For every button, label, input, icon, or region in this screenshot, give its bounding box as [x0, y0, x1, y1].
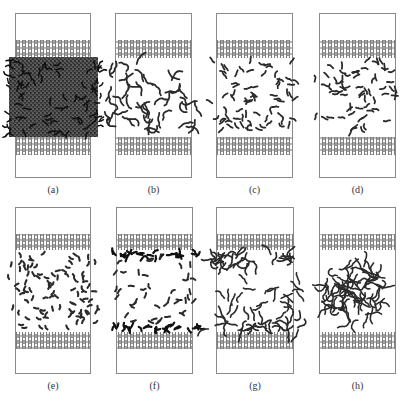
panel-label-c: (c)	[225, 184, 285, 195]
lower-graphene-sheet	[16, 332, 90, 349]
molecules	[198, 245, 306, 342]
molecules	[8, 252, 99, 330]
panel-label-e: (e)	[23, 380, 83, 391]
panel-label-f: (f)	[125, 380, 185, 391]
panel-a	[3, 40, 107, 155]
upper-graphene-sheet	[217, 40, 292, 58]
panel-h	[312, 234, 395, 349]
panel-label-h: (h)	[328, 380, 388, 391]
lower-graphene-sheet	[320, 332, 395, 349]
molecules	[105, 53, 202, 135]
panel-c	[207, 40, 299, 155]
lower-graphene-sheet	[320, 137, 395, 155]
lower-graphene-sheet	[116, 137, 191, 155]
molecules	[312, 251, 395, 332]
lower-graphene-sheet	[217, 332, 293, 349]
upper-graphene-sheet	[320, 40, 395, 58]
upper-graphene-sheet	[16, 40, 90, 58]
panel-f	[112, 234, 204, 349]
panel-label-a: (a)	[23, 184, 83, 195]
lower-graphene-sheet	[217, 137, 292, 155]
molecules	[3, 57, 107, 139]
panel-label-g: (g)	[225, 380, 285, 391]
panel-b	[105, 40, 202, 155]
upper-graphene-sheet	[320, 234, 395, 250]
lower-graphene-sheet	[117, 332, 192, 349]
panel-g	[198, 234, 306, 349]
panel-label-b: (b)	[124, 184, 184, 195]
upper-graphene-sheet	[117, 234, 192, 250]
simulation-snapshots	[0, 0, 412, 402]
upper-graphene-sheet	[16, 234, 90, 250]
molecules	[112, 248, 204, 333]
upper-graphene-sheet	[217, 234, 293, 250]
molecules	[207, 57, 299, 133]
molecules	[315, 58, 399, 136]
upper-graphene-sheet	[116, 40, 191, 58]
panel-e	[8, 234, 99, 349]
panel-label-d: (d)	[328, 184, 388, 195]
lower-graphene-sheet	[16, 137, 90, 155]
panel-d	[315, 40, 399, 155]
